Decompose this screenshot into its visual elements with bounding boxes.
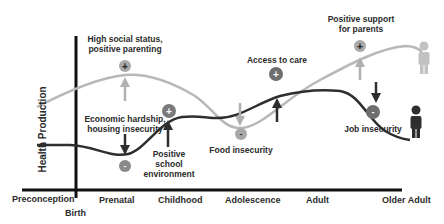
y-axis-label: Health Production xyxy=(37,93,48,173)
label-line: Access to care xyxy=(245,55,309,65)
label-food-insecurity: Food insecurity xyxy=(205,145,277,155)
label-line: Food insecurity xyxy=(205,145,277,155)
svg-text:-: - xyxy=(372,107,375,117)
label-high-social-status: High social status, positive parenting xyxy=(85,34,165,54)
label-access-to-care: Access to care xyxy=(245,55,309,65)
stage-birth: Birth xyxy=(65,208,86,218)
label-positive-support: Positive support for parents xyxy=(325,14,397,34)
label-positive-school: Positive school environment xyxy=(140,149,198,179)
label-line: environment xyxy=(140,169,198,179)
minus-marker-job-insecurity: - xyxy=(366,105,380,119)
stage-adult: Adult xyxy=(306,195,329,205)
label-job-insecurity: Job insecurity xyxy=(340,124,406,134)
label-line: school xyxy=(140,159,198,169)
plus-marker-access-to-care: + xyxy=(269,67,283,81)
stage-childhood: Childhood xyxy=(158,195,203,205)
label-line: Job insecurity xyxy=(340,124,406,134)
svg-text:-: - xyxy=(240,129,243,139)
minus-marker-food-insecurity: - xyxy=(235,128,247,140)
svg-text:+: + xyxy=(273,69,279,80)
life-course-diagram: + - + - + + - xyxy=(0,0,444,224)
person-icon-dark xyxy=(411,106,422,139)
label-line: High social status, xyxy=(85,34,165,44)
person-icon-light xyxy=(419,42,430,75)
stage-preconception: Preconception xyxy=(12,194,75,204)
minus-marker-economic-hardship: - xyxy=(119,160,131,172)
label-line: for parents xyxy=(325,24,397,34)
stage-older-adult: Older Adult xyxy=(382,195,431,205)
plus-marker-positive-support: + xyxy=(354,40,366,52)
svg-text:-: - xyxy=(124,161,127,171)
label-economic-hardship: Economic hardship, housing insecurity xyxy=(79,114,171,134)
label-line: Positive support xyxy=(325,14,397,24)
stage-prenatal: Prenatal xyxy=(99,195,135,205)
plus-marker-high-social-status: + xyxy=(119,60,131,72)
svg-text:+: + xyxy=(357,41,363,52)
svg-text:+: + xyxy=(122,61,128,72)
label-line: housing insecurity xyxy=(79,124,171,134)
stage-adolescence: Adolescence xyxy=(225,195,281,205)
label-line: Economic hardship, xyxy=(79,114,171,124)
label-line: Positive xyxy=(140,149,198,159)
label-line: positive parenting xyxy=(85,44,165,54)
